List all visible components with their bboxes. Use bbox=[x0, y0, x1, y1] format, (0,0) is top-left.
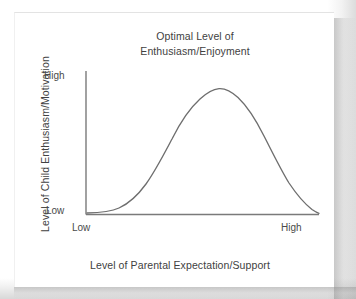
plot-area bbox=[15, 13, 335, 288]
figure-card: Optimal Level of Enthusiasm/Enjoyment Le… bbox=[14, 12, 334, 287]
figure-page: Optimal Level of Enthusiasm/Enjoyment Le… bbox=[0, 0, 356, 299]
card-shadow-right bbox=[334, 18, 356, 299]
x-axis-title: Level of Parental Expectation/Support bbox=[45, 259, 315, 271]
card-shadow-bottom bbox=[14, 287, 356, 299]
bell-curve bbox=[87, 89, 319, 214]
